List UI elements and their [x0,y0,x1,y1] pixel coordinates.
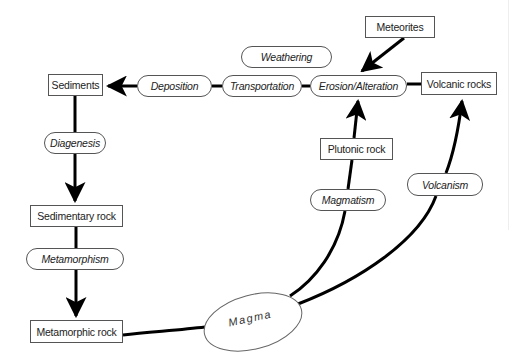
volcanic-rocks-node: Volcanic rocks [421,72,497,95]
arrow-volcanism-to-volcanic [446,101,462,173]
diagenesis-node: Diagenesis [44,132,106,154]
sedimentary-rock-node: Sedimentary rock [30,205,123,227]
connector-magma-to-magmatism [290,211,345,296]
plutonic-rock-node: Plutonic rock [320,138,393,160]
weathering-node: Weathering [241,46,332,68]
metamorphic-rock-node: Metamorphic rock [30,320,123,343]
right-edge-divider [508,0,509,230]
arrow-meteorites-to-erosion [362,38,404,71]
connector-magma-to-volcanism [298,196,436,304]
transportation-node: Transportation [222,75,302,97]
connector-magmatism-to-plutonic [348,160,352,189]
connector-metamorphic-to-magma [123,327,205,335]
erosion-alteration-node: Erosion/Alteration [310,75,407,97]
volcanism-node: Volcanism [407,173,483,196]
arrow-plutonic-to-erosion [354,101,358,138]
meteorites-node: Meteorites [365,16,435,38]
sediments-node: Sediments [48,74,103,96]
metamorphism-node: Metamorphism [26,248,124,270]
magmatism-node: Magmatism [310,189,386,211]
deposition-node: Deposition [137,75,212,97]
